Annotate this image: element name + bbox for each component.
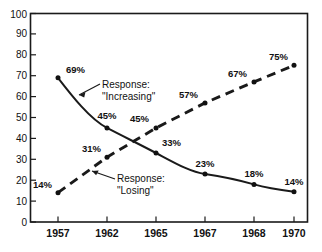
line-chart: 0 10 20 30 40 50 60 70 80 90 100 1957 19… bbox=[0, 0, 322, 252]
y-tick-label: 20 bbox=[16, 175, 28, 186]
x-tick-label: 1965 bbox=[144, 227, 168, 239]
data-label: 75% bbox=[269, 51, 289, 62]
y-tick-label: 50 bbox=[16, 112, 28, 123]
x-tick-label: 1970 bbox=[282, 227, 306, 239]
y-tick-label: 40 bbox=[16, 133, 28, 144]
data-point bbox=[203, 100, 208, 105]
annotation-line-1: Response: bbox=[117, 173, 165, 184]
data-label: 45% bbox=[130, 113, 150, 124]
data-label: 45% bbox=[97, 110, 117, 121]
data-label: 14% bbox=[33, 179, 53, 190]
y-tick-label: 30 bbox=[16, 154, 28, 165]
data-label: 31% bbox=[82, 143, 102, 154]
data-point bbox=[292, 63, 297, 68]
data-point bbox=[105, 155, 110, 160]
data-point bbox=[105, 125, 110, 130]
data-point bbox=[154, 151, 159, 156]
y-tick-label: 100 bbox=[10, 9, 27, 20]
x-tick-label: 1967 bbox=[193, 227, 217, 239]
x-tick-label: 1962 bbox=[95, 227, 119, 239]
y-tick-label: 60 bbox=[16, 91, 28, 102]
y-tick-label: 0 bbox=[21, 217, 27, 228]
data-label: 57% bbox=[179, 89, 199, 100]
y-tick-label: 90 bbox=[16, 28, 28, 39]
data-point bbox=[56, 190, 61, 195]
data-label: 33% bbox=[162, 137, 182, 148]
annotation-line-2: "Increasing" bbox=[102, 91, 156, 102]
data-label: 23% bbox=[195, 158, 215, 169]
x-tick-label: 1957 bbox=[46, 227, 70, 239]
data-point bbox=[252, 182, 257, 187]
data-label: 14% bbox=[284, 176, 304, 187]
data-label: 18% bbox=[244, 168, 264, 179]
data-point bbox=[56, 75, 61, 80]
annotation-line-2: "Losing" bbox=[117, 185, 154, 196]
data-label: 67% bbox=[228, 68, 248, 79]
annotation-line-1: Response: bbox=[102, 79, 150, 90]
y-tick-label: 10 bbox=[16, 196, 28, 207]
chart-container: 0 10 20 30 40 50 60 70 80 90 100 1957 19… bbox=[0, 0, 322, 252]
y-tick-label: 70 bbox=[16, 70, 28, 81]
data-label: 69% bbox=[66, 64, 86, 75]
data-point bbox=[252, 79, 257, 84]
data-point bbox=[292, 189, 297, 194]
y-tick-label: 80 bbox=[16, 49, 28, 60]
data-point bbox=[203, 172, 208, 177]
x-tick-label: 1968 bbox=[242, 227, 266, 239]
data-point bbox=[154, 126, 159, 131]
